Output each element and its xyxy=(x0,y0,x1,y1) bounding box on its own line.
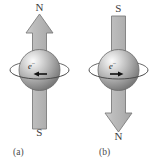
panel-a-electron-label: e− xyxy=(28,62,35,71)
panel-a-electron-charge: − xyxy=(32,60,35,66)
panel-a-electron-sphere xyxy=(0,0,79,164)
panel-a-bottom-pole-label: S xyxy=(0,126,79,138)
panel-b-bottom-pole-label: N xyxy=(79,130,158,142)
spin-magnetic-moment-figure: N xyxy=(0,0,158,164)
panel-b-caption: (b) xyxy=(99,147,110,158)
panel-b-electron-charge: − xyxy=(113,60,116,66)
panel-b: S xyxy=(79,0,158,164)
panel-a: N xyxy=(0,0,79,164)
panel-b-electron-label: e− xyxy=(109,62,116,71)
panel-a-caption: (a) xyxy=(13,147,24,158)
